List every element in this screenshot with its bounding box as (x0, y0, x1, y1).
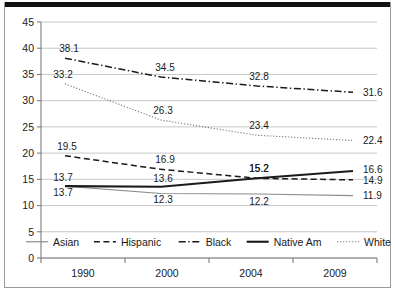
y-tick-label: 20 (22, 147, 34, 159)
legend-label-hispanic: Hispanic (121, 236, 161, 248)
data-label: 11.9 (363, 190, 382, 201)
series-line-black (65, 58, 353, 92)
y-tick-label: 35 (22, 68, 34, 80)
legend-label-white: White (364, 236, 391, 248)
y-tick-label: 30 (22, 94, 34, 106)
data-label: 15.2 (249, 163, 269, 174)
x-tick-label: 1990 (71, 267, 95, 279)
y-tick-label: 40 (22, 42, 34, 54)
y-axis: 051015202530354045 (22, 16, 41, 264)
legend-label-black: Black (206, 236, 232, 248)
line-chart-canvas: 051015202530354045 1990200020042009 13.7… (0, 0, 395, 291)
y-tick-label: 10 (22, 199, 34, 211)
data-label: 13.7 (53, 172, 73, 183)
data-label: 32.8 (249, 71, 269, 82)
legend-label-asian: Asian (53, 236, 79, 248)
series-line-hispanic (65, 156, 353, 180)
data-label: 22.4 (363, 135, 383, 146)
series-line-white (65, 84, 353, 141)
x-tick-label: 2000 (155, 267, 179, 279)
y-tick-label: 15 (22, 173, 34, 185)
y-tick-label: 5 (28, 226, 34, 238)
x-tick-label: 2004 (239, 267, 263, 279)
data-label: 31.6 (363, 87, 383, 98)
data-label: 26.3 (153, 105, 173, 116)
data-label: 33.2 (53, 69, 73, 80)
y-tick-label: 45 (22, 16, 34, 28)
legend-label-native-am: Native Am (274, 236, 322, 248)
data-label: 38.1 (59, 43, 79, 54)
x-axis: 1990200020042009 (41, 258, 377, 279)
data-label: 13.7 (53, 187, 73, 198)
data-label: 12.3 (153, 194, 173, 205)
data-label: 16.9 (155, 154, 175, 165)
data-label: 16.6 (363, 164, 383, 175)
data-label: 14.9 (363, 175, 383, 186)
gridline-group (41, 22, 377, 258)
data-label: 34.5 (155, 62, 175, 73)
series-line-asian (65, 186, 353, 195)
x-tick-label: 2009 (323, 267, 347, 279)
data-label: 19.5 (57, 141, 77, 152)
chart-legend: AsianHispanicBlackNative AmWhite (26, 236, 391, 248)
y-tick-label: 25 (22, 121, 34, 133)
y-tick-label: 0 (28, 252, 34, 264)
data-label: 13.6 (153, 173, 173, 184)
data-label: 12.2 (249, 196, 269, 207)
data-label: 23.4 (249, 120, 269, 131)
chart-figure: 051015202530354045 1990200020042009 13.7… (0, 0, 395, 291)
